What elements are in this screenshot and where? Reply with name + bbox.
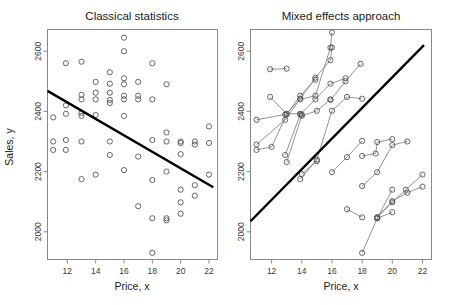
x-tick-label: 20 (176, 266, 186, 276)
y-tick-label: 2400 (33, 102, 43, 121)
x-tick-label: 16 (119, 266, 129, 276)
x-tick-label: 22 (418, 266, 428, 276)
x-tick-label: 16 (327, 266, 337, 276)
y-tick-label: 2600 (236, 41, 246, 60)
y-tick-label: 2000 (236, 222, 246, 241)
x-tick-label: 20 (388, 266, 398, 276)
x-tick-label: 22 (204, 266, 214, 276)
x-tick-label: 14 (91, 266, 101, 276)
y-axis-label-classical: Sales, y (3, 128, 15, 166)
plot-svg: Classical statistics 2000220024002600 12… (0, 0, 452, 305)
x-tick-label: 14 (297, 266, 307, 276)
y-tick-label: 2600 (33, 41, 43, 60)
figure-container: Classical statistics 2000220024002600 12… (0, 0, 452, 305)
y-tick-label: 2200 (33, 162, 43, 181)
x-tick-label: 18 (357, 266, 367, 276)
x-axis-label-mixed: Price, x (323, 280, 359, 292)
x-tick-label: 12 (267, 266, 277, 276)
y-tick-label: 2400 (236, 102, 246, 121)
x-tick-label: 18 (148, 266, 158, 276)
y-tick-label: 2000 (33, 222, 43, 241)
panel-title-mixed: Mixed effects approach (282, 10, 401, 22)
x-tick-label: 12 (63, 266, 73, 276)
x-axis-label-classical: Price, x (114, 280, 150, 292)
panel-title-classical: Classical statistics (85, 10, 179, 22)
y-tick-label: 2200 (236, 162, 246, 181)
